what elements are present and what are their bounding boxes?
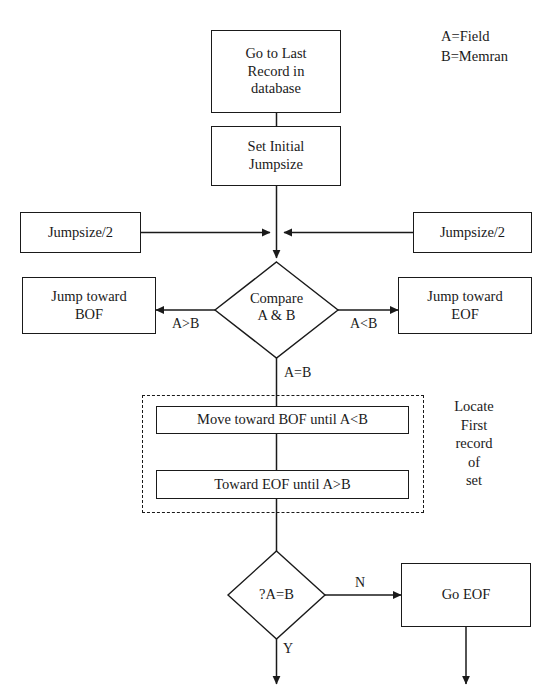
node-go-to-last-record[interactable]: Go to Last Record in database [211, 30, 341, 113]
edge-label-a-equals-b: A=B [283, 365, 312, 380]
node-jump-toward-eof[interactable]: Jump toward EOF [398, 277, 532, 334]
node-jumpsize-half-right[interactable]: Jumpsize/2 [413, 212, 532, 253]
annotation-locate-first-record: Locate First record of set [438, 397, 510, 490]
node-move-toward-bof[interactable]: Move toward BOF until A<B [156, 406, 409, 434]
node-jumpsize-half-left[interactable]: Jumpsize/2 [20, 212, 141, 253]
node-set-initial-jumpsize[interactable]: Set Initial Jumpsize [211, 126, 341, 186]
node-compare-a-and-b[interactable]: Compare A & B [231, 290, 322, 325]
edge-label-a-greater-than-b: A>B [171, 316, 200, 331]
flowchart-canvas: A=Field B=Memran Go to Last Record in da… [0, 0, 552, 697]
node-check-a-equals-b[interactable]: ?A=B [246, 586, 307, 603]
edge-label-a-less-than-b: A<B [349, 316, 378, 331]
node-toward-eof[interactable]: Toward EOF until A>B [156, 470, 409, 499]
legend-line-memran: B=Memran [441, 47, 508, 66]
edge-label-yes: Y [282, 641, 294, 656]
legend-line-field: A=Field [441, 27, 489, 46]
edge-label-no: N [354, 575, 366, 590]
node-jump-toward-bof[interactable]: Jump toward BOF [22, 277, 156, 334]
node-go-eof[interactable]: Go EOF [401, 563, 531, 627]
